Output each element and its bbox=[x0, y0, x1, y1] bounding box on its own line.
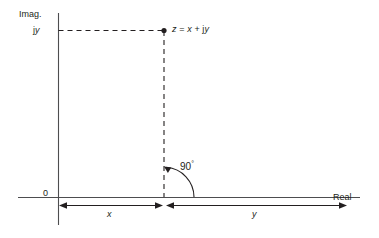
dimension-arrowhead-x-left bbox=[59, 202, 67, 208]
real-axis-label: Real bbox=[333, 193, 352, 202]
equation-imaginary-part: y bbox=[204, 24, 209, 34]
imaginary-tick-label: jy bbox=[33, 26, 40, 35]
dimension-arrowhead-x-right bbox=[155, 202, 163, 208]
dimension-label-y: y bbox=[252, 210, 257, 219]
complex-plane-figure: Imag. Real jy 0 z = x + jy 90° x y bbox=[0, 0, 379, 238]
figure-canvas bbox=[0, 0, 379, 238]
right-angle-label: 90° bbox=[180, 162, 194, 172]
equation-plus: + bbox=[192, 24, 203, 34]
degree-symbol: ° bbox=[191, 160, 194, 167]
right-angle-value: 90 bbox=[180, 161, 191, 172]
imaginary-tick-suffix: y bbox=[35, 25, 40, 35]
equation-equals: = bbox=[177, 24, 188, 34]
right-angle-arc-arrowhead bbox=[164, 167, 171, 174]
point-equation-label: z = x + jy bbox=[172, 25, 209, 34]
origin-label: 0 bbox=[43, 189, 48, 198]
dimension-arrowhead-y-right bbox=[339, 202, 347, 208]
dimension-arrowhead-y-left bbox=[166, 202, 174, 208]
imaginary-axis-label: Imag. bbox=[19, 10, 42, 19]
dimension-label-x: x bbox=[107, 210, 112, 219]
point-marker-z bbox=[161, 28, 166, 33]
